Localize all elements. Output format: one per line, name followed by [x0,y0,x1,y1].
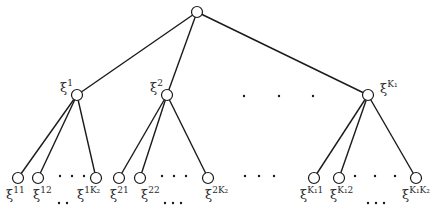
leaf-node [91,173,102,184]
node-xi1 [72,90,83,101]
edge-leaf-5 [167,95,208,178]
ellipsis-dot [58,202,60,204]
ellipsis-dot [367,202,369,204]
label-xi2: ξ2 [150,78,163,95]
node-xi2 [162,90,173,101]
ellipsis-dot [243,95,245,97]
edge-leaf-2 [77,95,96,178]
leaf-label: ξ1K₂ [77,185,101,202]
edge-leaf-8 [368,95,416,178]
ellipsis-dot [180,202,182,204]
edge-leaf-4 [140,95,167,178]
root-node [192,7,203,18]
edge-leaf-6 [314,95,368,178]
ellipsis-dot [244,175,246,177]
leaf-label: ξ12 [33,185,52,202]
label-xiK1: ξK₁ [380,79,398,96]
leaf-node [411,173,422,184]
edge-leaf-3 [119,95,167,178]
ellipsis-dot [278,95,280,97]
leaf-label: ξK₁K₂ [402,185,430,202]
tree-nodes [13,7,422,184]
edge-root-to-xi2 [167,12,197,95]
ellipsis-dot [383,202,385,204]
ellipsis-dot [394,175,396,177]
edge-root-to-xi1 [77,12,197,95]
leaf-label: ξ2K₂ [205,185,229,202]
ellipsis-dot [83,175,85,177]
ellipsis-dot [374,175,376,177]
edge-root-to-xiK1 [197,12,368,95]
ellipsis-dot [59,175,61,177]
tree-diagram: ξ1ξ2ξK₁ξ11ξ12ξ1K₂ξ21ξ22ξ2K₂ξK₁1ξK₁2ξK₁K₂ [0,0,441,207]
ellipsis-dot [258,175,260,177]
ellipsis-dot [375,202,377,204]
ellipsis-dot [161,175,163,177]
ellipsis-dot [71,175,73,177]
leaf-node [135,173,146,184]
leaf-node [114,173,125,184]
ellipsis-dot [164,202,166,204]
edge-leaf-0 [18,95,77,178]
leaf-label: ξK₁2 [330,185,353,202]
ellipsis-dot [354,175,356,177]
leaf-label: ξ11 [6,185,25,202]
leaf-node [203,173,214,184]
leaf-label: ξ21 [110,185,129,202]
leaf-label: ξK₁1 [300,185,323,202]
leaf-node [33,173,44,184]
node-xiK1 [363,90,374,101]
ellipsis-dot [66,202,68,204]
ellipsis-dot [172,202,174,204]
ellipsis-dot [312,95,314,97]
leaf-label: ξ22 [141,185,160,202]
edge-leaf-1 [38,95,77,178]
label-xi1: ξ1 [60,78,73,95]
leaf-node [309,173,320,184]
ellipsis-dot [173,175,175,177]
leaf-node [334,173,345,184]
edge-leaf-7 [339,95,368,178]
ellipsis-dot [273,175,275,177]
leaf-node [13,173,24,184]
ellipsis-dot [185,175,187,177]
